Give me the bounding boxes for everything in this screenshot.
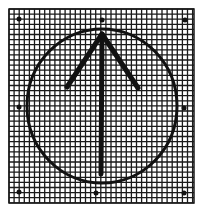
dot-top-center bbox=[100, 18, 105, 23]
dot-bottom-right bbox=[182, 191, 187, 196]
arrow-grid-figure bbox=[0, 0, 216, 211]
arrow-shaft bbox=[101, 34, 102, 174]
dot-middle-left bbox=[17, 105, 22, 110]
dot-top-left bbox=[17, 17, 22, 22]
dot-bottom-left bbox=[17, 190, 22, 195]
dot-middle-right bbox=[182, 106, 187, 111]
dot-bottom-center bbox=[94, 191, 99, 196]
dot-top-right bbox=[183, 18, 188, 23]
